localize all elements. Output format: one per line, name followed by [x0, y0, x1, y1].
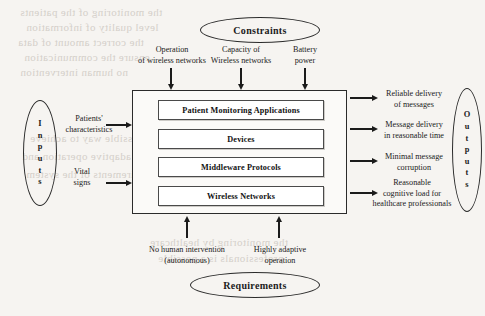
inputs-letter: p — [38, 141, 43, 153]
requirement-arrow-highly-adaptive — [278, 222, 280, 238]
outputs-ellipse[interactable]: O u t p u t s — [452, 88, 482, 212]
layer-label: Middleware Protocols — [201, 163, 281, 172]
outputs-letter: p — [464, 144, 471, 156]
constraint-arrow-battery — [304, 68, 306, 84]
outputs-letter: t — [464, 167, 471, 179]
output-arrow-minimal-corruption — [350, 160, 372, 162]
layer-middleware-protocols[interactable]: Middleware Protocols — [158, 157, 324, 177]
outputs-letter: u — [464, 121, 471, 133]
layer-label: Devices — [227, 135, 254, 144]
output-label-message-delivery: Message delivery in reasonable time — [374, 120, 454, 141]
outputs-label-stack: O u t p u t s — [464, 109, 471, 190]
bleed-text-line: the monitoring of the patients — [20, 6, 162, 18]
bleed-text-line: the correct amount of data — [18, 36, 144, 48]
requirements-label: Requirements — [223, 280, 286, 291]
system-container-box: Patient Monitoring Applications Devices … — [132, 90, 347, 214]
input-label-vital-signs: Vital signs — [62, 167, 102, 188]
inputs-letter: t — [38, 165, 43, 177]
constraint-arrow-operation — [170, 68, 172, 84]
constraints-label: Constraints — [233, 25, 286, 36]
outputs-letter: O — [464, 109, 471, 121]
outputs-letter: t — [464, 133, 471, 145]
bleed-text-line: level quality of information — [26, 21, 158, 33]
requirement-label-no-human-intervention: No human intervention (autonomous) — [140, 245, 234, 266]
layer-patient-monitoring-applications[interactable]: Patient Monitoring Applications — [158, 100, 324, 120]
input-arrow-patients-characteristics — [106, 124, 126, 126]
constraints-ellipse[interactable]: Constraints — [200, 17, 320, 43]
diagram-canvas: the monitoring of the patients level qua… — [0, 0, 485, 316]
constraint-label-capacity: Capacity of Wireless networks — [198, 45, 284, 66]
layer-wireless-networks[interactable]: Wireless Networks — [158, 186, 324, 206]
layer-devices[interactable]: Devices — [158, 129, 324, 149]
output-arrow-reliable-delivery — [350, 97, 372, 99]
constraint-arrow-capacity — [240, 68, 242, 84]
output-arrow-message-delivery — [350, 128, 372, 130]
outputs-letter: u — [464, 156, 471, 168]
outputs-letter: s — [464, 179, 471, 191]
inputs-letter: I — [38, 118, 43, 130]
inputs-letter: s — [38, 176, 43, 188]
output-label-cognitive-load: Reasonable cognitive load for healthcare… — [370, 178, 454, 210]
layer-label: Wireless Networks — [207, 192, 275, 201]
inputs-letter: u — [38, 153, 43, 165]
output-label-reliable-delivery: Reliable delivery of messages — [376, 89, 452, 110]
output-arrow-cognitive-load — [350, 192, 372, 194]
layer-label: Patient Monitoring Applications — [182, 106, 299, 115]
requirement-label-highly-adaptive: Highly adaptive operation — [245, 245, 315, 266]
requirements-ellipse[interactable]: Requirements — [190, 272, 320, 298]
inputs-label-stack: I n p u t s — [38, 118, 43, 188]
bleed-text-line: no human intervention — [20, 66, 128, 78]
inputs-ellipse[interactable]: I n p u t s — [23, 100, 57, 206]
input-arrow-vital-signs — [106, 182, 126, 184]
inputs-letter: n — [38, 130, 43, 142]
requirement-arrow-no-human-intervention — [186, 222, 188, 238]
output-label-minimal-corruption: Minimal message corruption — [376, 152, 452, 173]
constraint-label-battery: Battery power — [281, 45, 329, 66]
